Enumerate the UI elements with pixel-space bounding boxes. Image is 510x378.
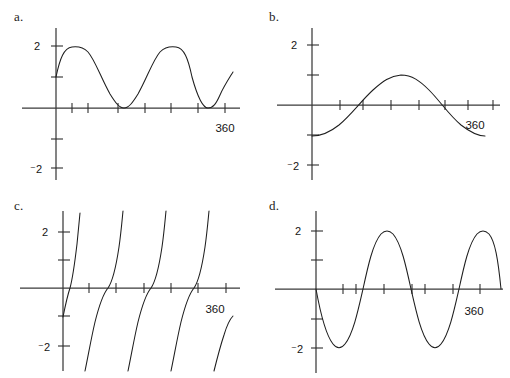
tangent-branch	[63, 213, 80, 317]
curve-a	[56, 47, 233, 108]
y-axis-top-label-b: 2	[291, 39, 297, 51]
tangent-branch	[128, 211, 166, 371]
plot-svg-b: 2 ⁻2 360	[255, 0, 510, 189]
plot-area-c: 2 ⁻2 360	[0, 189, 255, 378]
y-axis-bottom-label-d: ⁻2	[291, 343, 303, 355]
y-ticks-c	[58, 232, 70, 346]
worksheet-sheet: a.	[0, 0, 510, 378]
y-ticks-a	[51, 46, 63, 168]
x-axis-end-label-d: 360	[464, 305, 483, 317]
plot-area-b: 2 ⁻2 360	[255, 0, 510, 189]
plot-svg-c: 2 ⁻2 360	[0, 189, 255, 378]
plot-area-a: 2 ⁻2 360	[0, 0, 255, 189]
graph-panel-b: b.	[255, 0, 510, 189]
y-axis-top-label-d: 2	[295, 225, 301, 237]
plot-area-d: 2 ⁻2 360	[255, 189, 510, 378]
axes-b	[277, 28, 500, 180]
y-axis-top-label-a: 2	[34, 40, 40, 52]
x-axis-end-label-c: 360	[205, 303, 224, 315]
tangent-branch	[214, 316, 233, 371]
tangent-branch	[171, 211, 209, 371]
y-axis-bottom-label-c: ⁻2	[38, 341, 50, 353]
graph-panel-a: a.	[0, 0, 255, 189]
x-axis-end-label-b: 360	[465, 119, 484, 131]
y-axis-bottom-label-b: ⁻2	[287, 160, 299, 172]
tangent-branch	[85, 211, 123, 371]
y-axis-top-label-c: 2	[42, 226, 48, 238]
x-axis-end-label-a: 360	[215, 122, 234, 134]
graph-panel-d: d.	[255, 189, 510, 378]
y-axis-bottom-label-a: ⁻2	[30, 163, 42, 175]
graph-panel-c: c.	[0, 189, 255, 378]
axes-d	[275, 211, 503, 373]
plot-svg-d: 2 ⁻2 360	[255, 189, 510, 378]
plot-svg-a: 2 ⁻2 360	[0, 0, 255, 189]
